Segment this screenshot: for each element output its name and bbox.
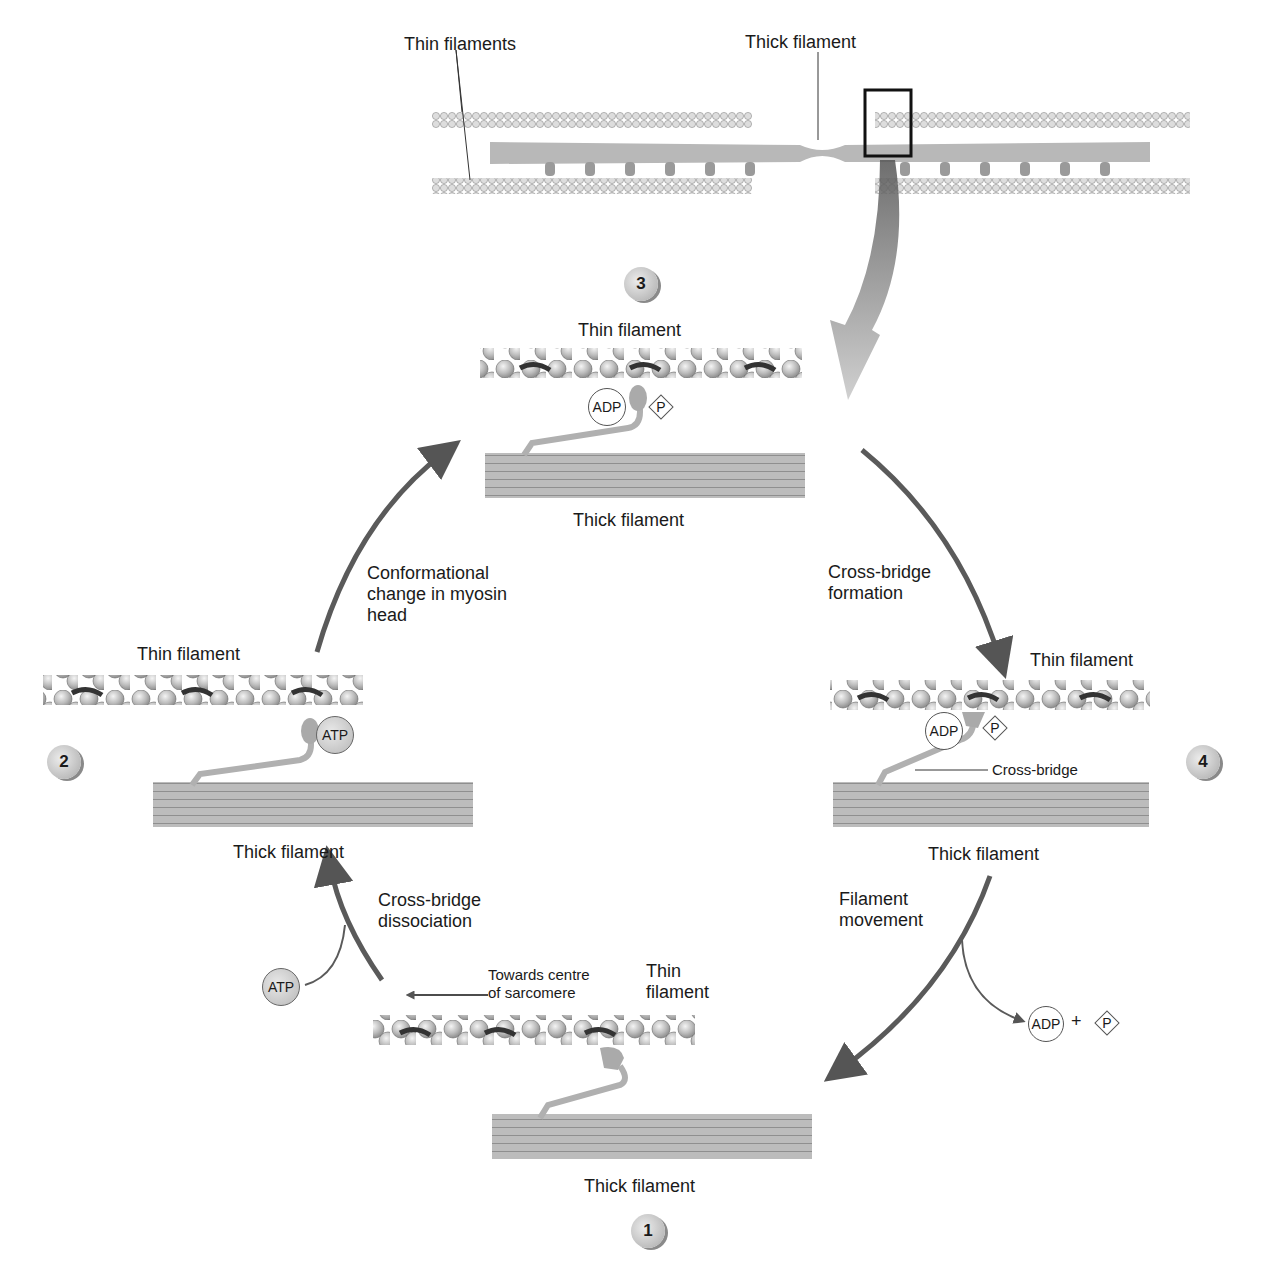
step-3-thin-label: Thin filament [578,320,681,341]
arrow-atp-input [305,925,345,985]
step-1-badge: 1 [631,1214,665,1248]
arrow-3-to-4 [862,450,1000,660]
adp-molecule: ADP [925,712,963,750]
cross-bridge-dissociation-label: Cross-bridge dissociation [378,890,481,932]
step-1-thin-label: Thin filament [646,961,709,1003]
step-3-badge: 3 [624,267,658,301]
phosphate-molecule: P [650,396,672,418]
phosphate-released-molecule: P [1096,1012,1118,1034]
filament-movement-label: Filament movement [839,889,923,931]
thin-filaments-label: Thin filaments [404,34,516,55]
step-2-thick-label: Thick filament [233,842,344,863]
cross-bridge-formation-label: Cross-bridge formation [828,562,931,604]
arrow-release [962,940,1020,1020]
plus-sign: + [1071,1011,1082,1032]
atp-molecule: ATP [316,716,354,754]
arrow-1-to-2 [330,865,382,980]
step-3-thick-label: Thick filament [573,510,684,531]
atp-input-molecule: ATP [262,968,300,1006]
adp-released-molecule: ADP [1028,1006,1064,1042]
magnify-arrow [830,160,899,400]
step-4-thick-label: Thick filament [928,844,1039,865]
cross-bridge-label: Cross-bridge [992,761,1078,779]
conformational-change-label: Conformational change in myosin head [367,563,507,626]
direction-label: Towards centre of sarcomere [488,966,590,1002]
step-2-badge: 2 [47,745,81,779]
thick-filament-label: Thick filament [745,32,856,53]
adp-molecule: ADP [588,388,626,426]
step-4-badge: 4 [1186,745,1220,779]
step-2-thin-label: Thin filament [137,644,240,665]
phosphate-molecule: P [984,717,1006,739]
overview-sarcomere [432,50,1190,400]
step-4-thin-label: Thin filament [1030,650,1133,671]
step-1-thick-label: Thick filament [584,1176,695,1197]
